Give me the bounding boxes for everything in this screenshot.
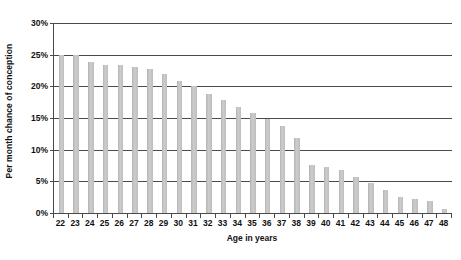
bar	[339, 170, 345, 213]
x-axis-tick-label: 34	[233, 218, 242, 228]
y-axis-tick-label: 10%	[31, 145, 48, 155]
bar	[132, 67, 138, 213]
x-axis-tick-label: 23	[70, 218, 79, 228]
x-axis-tick-label: 38	[291, 218, 300, 228]
x-axis-tick-label: 37	[277, 218, 286, 228]
bar	[162, 74, 168, 213]
plot-area	[53, 23, 452, 214]
bars-layer	[54, 23, 452, 213]
bar	[118, 65, 124, 213]
bar	[280, 126, 286, 213]
bar	[427, 201, 433, 213]
x-axis-tick-label: 25	[100, 218, 109, 228]
bar	[147, 69, 153, 213]
bar	[59, 55, 65, 213]
bar	[368, 183, 374, 213]
x-axis-tick-label: 32	[203, 218, 212, 228]
bar	[309, 165, 315, 213]
y-axis-tick-label: 5%	[36, 176, 48, 186]
x-axis-tick-label: 46	[409, 218, 418, 228]
bar	[177, 81, 183, 213]
bar	[412, 199, 418, 213]
x-axis-tick-label: 42	[350, 218, 359, 228]
x-axis-tick-label: 29	[159, 218, 168, 228]
x-axis-tick-label: 27	[129, 218, 138, 228]
x-axis-tick-label: 31	[188, 218, 197, 228]
x-axis-tick-label: 30	[174, 218, 183, 228]
bar	[103, 65, 109, 213]
y-axis-tick-label: 0%	[36, 208, 48, 218]
y-axis-tick-label: 15%	[31, 113, 48, 123]
bar	[265, 119, 271, 213]
conception-chance-bar-chart: Per month chance of conception 0%5%10%15…	[0, 0, 461, 260]
y-axis-tick-label: 20%	[31, 81, 48, 91]
bar	[206, 94, 212, 213]
bar	[353, 177, 359, 213]
x-axis-tick-label: 48	[439, 218, 448, 228]
x-axis-tick-label: 40	[321, 218, 330, 228]
x-axis-tick-label: 35	[247, 218, 256, 228]
x-axis-tick-label-group: 2223242526272829303132333435363738394041…	[53, 218, 451, 231]
x-axis-tick-label: 44	[380, 218, 389, 228]
x-axis-tick-label: 36	[262, 218, 271, 228]
y-axis-title-label: Per month chance of conception	[4, 44, 14, 179]
bar	[88, 62, 94, 213]
bar	[250, 113, 256, 213]
x-axis-tick-label: 33	[218, 218, 227, 228]
x-axis-tick-label: 24	[85, 218, 94, 228]
bar	[324, 167, 330, 213]
y-axis-title: Per month chance of conception	[0, 0, 18, 222]
y-axis-tick-label: 25%	[31, 50, 48, 60]
bar	[191, 86, 197, 213]
y-axis-tick-label: 30%	[31, 18, 48, 28]
x-axis-title: Age in years	[53, 233, 451, 243]
bar	[236, 107, 242, 213]
x-axis-tick-label: 26	[115, 218, 124, 228]
x-axis-tick-label: 45	[395, 218, 404, 228]
x-axis-tick-label: 43	[365, 218, 374, 228]
x-axis-tickmark	[451, 213, 452, 218]
x-axis-tick-label: 22	[56, 218, 65, 228]
bar	[383, 190, 389, 213]
bar	[398, 197, 404, 213]
bar	[73, 55, 79, 213]
x-axis-tick-label: 47	[424, 218, 433, 228]
x-axis-tick-label: 41	[336, 218, 345, 228]
x-axis-tick-label: 39	[306, 218, 315, 228]
x-axis-tick-label: 28	[144, 218, 153, 228]
bar	[221, 100, 227, 213]
y-axis-tick-label-group: 0%5%10%15%20%25%30%	[18, 0, 51, 222]
bar	[294, 138, 300, 213]
